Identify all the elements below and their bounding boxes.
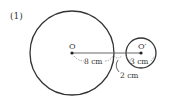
circles-diagram: (1) O O′ 8 cm 3 cm 2 cm [0,0,169,99]
diagram-canvas: (1) O O′ 8 cm 3 cm 2 cm [0,0,169,99]
center-o-prime-label: O′ [138,42,147,51]
problem-number: (1) [10,11,23,21]
center-o-point [70,51,73,54]
gap-pointer [116,60,119,72]
gap-label: 2 cm [120,71,138,80]
gap-brace [114,56,122,58]
center-o-label: O [69,42,76,51]
center-o-prime-point [139,51,142,54]
big-radius-label: 8 cm [84,57,102,66]
small-radius-label: 3 cm [130,57,148,66]
